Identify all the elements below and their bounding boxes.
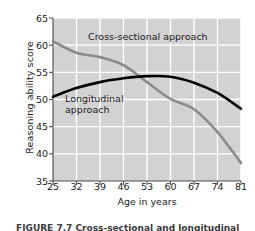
x-axis-title: Age in years xyxy=(53,196,241,207)
figure-caption: FIGURE 7.7 Cross-sectional and longitudi… xyxy=(16,223,239,231)
longitudinal-label: Longitudinal approach xyxy=(65,93,124,115)
figure-container: Reasoning ability score 35404550556065 2… xyxy=(0,0,255,231)
cross-sectional-label: Cross-sectional approach xyxy=(88,31,208,42)
